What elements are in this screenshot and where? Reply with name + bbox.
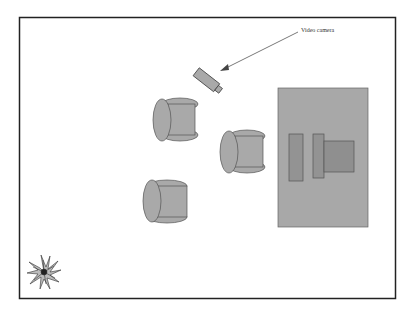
monitor-icon: [324, 141, 354, 172]
chair-3-icon: [143, 180, 187, 223]
desk: [278, 88, 368, 227]
desk-panel-1: [289, 134, 303, 181]
camera-label: Video camera: [301, 27, 334, 33]
desk-panel-2: [313, 134, 324, 178]
chair-2-icon: [220, 130, 265, 173]
room-diagram: [0, 0, 415, 315]
chair-1-icon: [153, 98, 198, 141]
